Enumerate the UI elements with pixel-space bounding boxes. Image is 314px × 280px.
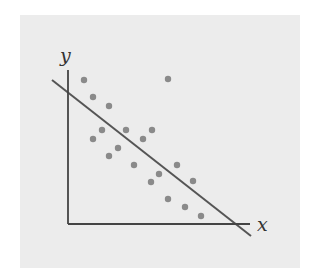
x-axis-label: x <box>257 213 268 235</box>
data-point <box>131 162 137 168</box>
data-point <box>123 127 129 133</box>
data-point <box>81 77 87 83</box>
data-point <box>149 127 155 133</box>
regression-line <box>52 80 251 236</box>
data-point <box>165 76 171 82</box>
data-point <box>99 127 105 133</box>
data-point <box>182 204 188 210</box>
data-point <box>90 94 96 100</box>
data-point <box>198 213 204 219</box>
y-axis-label: y <box>59 44 71 66</box>
data-point <box>140 136 146 142</box>
data-point <box>90 136 96 142</box>
data-point <box>165 196 171 202</box>
data-point <box>190 178 196 184</box>
data-point <box>148 179 154 185</box>
data-point <box>115 145 121 151</box>
data-point <box>174 162 180 168</box>
data-point <box>106 153 112 159</box>
data-points <box>81 76 204 219</box>
scatter-chart: y x <box>0 0 314 280</box>
data-point <box>156 171 162 177</box>
data-point <box>106 103 112 109</box>
